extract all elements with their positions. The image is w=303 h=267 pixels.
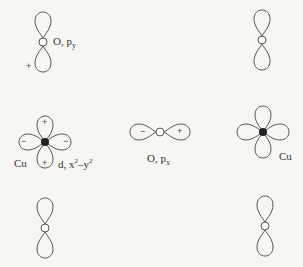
o-py-orbital-top-left <box>35 12 51 72</box>
minus-sign-cu-right: − <box>63 136 68 146</box>
plus-sign-cu-bottom: + <box>42 158 47 168</box>
o-py-orbital-top-right <box>254 10 270 70</box>
minus-sign-cu-left: − <box>21 136 26 146</box>
o-py-orbital-bottom-right <box>257 196 273 256</box>
o-py-label: O, py <box>53 35 76 50</box>
plus-sign-py: + <box>26 61 31 71</box>
cu-label-left: Cu <box>14 157 27 169</box>
o-py-orbital-bottom-left <box>37 198 53 258</box>
cu-label-right: Cu <box>279 150 292 162</box>
cu-d-orbital-label: d, x2–y2 <box>58 157 93 170</box>
minus-sign-px: − <box>140 126 145 136</box>
orbital-diagram <box>0 0 303 267</box>
plus-sign-cu-top: + <box>42 117 47 127</box>
plus-sign-px: + <box>177 126 182 136</box>
o-px-label: O, px <box>147 152 170 167</box>
